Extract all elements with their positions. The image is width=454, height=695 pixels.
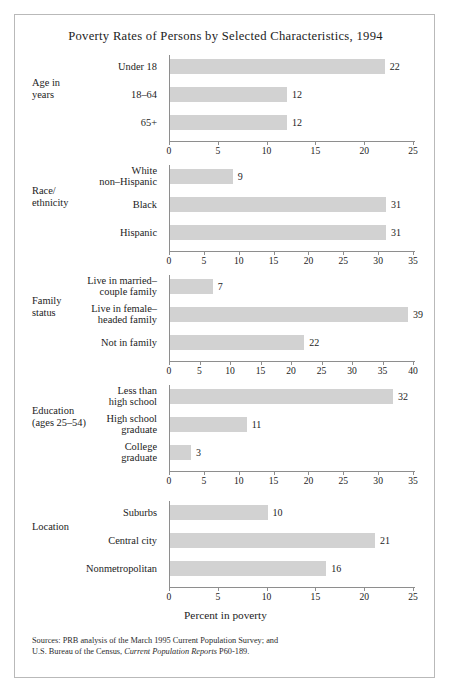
bar xyxy=(170,169,233,184)
category-label: Whitenon–Hispanic xyxy=(27,165,157,188)
axis-tick-label: 5 xyxy=(201,255,206,266)
x-axis-line xyxy=(169,361,415,362)
axis-tick-label: 20 xyxy=(359,591,369,602)
axis-tick-label: 5 xyxy=(215,591,220,602)
x-axis-line xyxy=(169,141,415,142)
bar xyxy=(170,197,386,212)
axis-tick-label: 15 xyxy=(311,145,321,156)
panel-plot-area: 05101520253035Whitenon–HispanicBlackHisp… xyxy=(169,163,414,267)
bar xyxy=(170,505,268,520)
sources-note: Sources: PRB analysis of the March 1995 … xyxy=(32,635,422,657)
bar xyxy=(170,307,408,322)
axis-tick-label: 15 xyxy=(256,365,266,376)
axis-tick-label: 15 xyxy=(311,591,321,602)
category-label: High schoolgraduate xyxy=(27,413,157,436)
sources-text: U.S. Bureau of the Census, xyxy=(32,647,124,656)
axis-tick-label: 25 xyxy=(317,365,327,376)
bar-value-label: 32 xyxy=(398,391,408,402)
category-label: Under 18 xyxy=(27,61,157,72)
category-label-line: Hispanic xyxy=(27,227,157,238)
bar-value-label: 3 xyxy=(196,447,201,458)
category-label-line: Suburbs xyxy=(27,507,157,518)
axis-tick-label: 0 xyxy=(167,475,172,486)
axis-tick-label: 5 xyxy=(197,365,202,376)
axis-tick-label: 20 xyxy=(304,255,314,266)
category-label-line: Less than xyxy=(27,385,157,396)
bar-value-label: 16 xyxy=(331,563,341,574)
category-label-line: Black xyxy=(27,199,157,210)
category-label: 65+ xyxy=(27,117,157,128)
bar-value-label: 31 xyxy=(391,199,401,210)
axis-tick-label: 0 xyxy=(167,145,172,156)
axis-tick-label: 10 xyxy=(234,475,244,486)
bar xyxy=(170,115,287,130)
bar xyxy=(170,561,326,576)
category-label-line: Central city xyxy=(27,535,157,546)
bar-value-label: 22 xyxy=(309,337,319,348)
panel-plot-area: 0510152025303540Live in married–couple f… xyxy=(169,273,414,377)
page-title: Poverty Rates of Persons by Selected Cha… xyxy=(15,29,436,44)
bar xyxy=(170,445,191,460)
category-label-line: Live in female– xyxy=(27,303,157,314)
axis-tick-label: 30 xyxy=(347,365,357,376)
category-label-line: graduate xyxy=(27,452,157,463)
category-label-line: 18–64 xyxy=(27,89,157,100)
category-label-line: couple family xyxy=(27,286,157,297)
sources-report-number: P60-189. xyxy=(217,647,249,656)
axis-tick-label: 0 xyxy=(167,255,172,266)
axis-tick-label: 40 xyxy=(408,365,418,376)
category-label-line: Live in married– xyxy=(27,275,157,286)
category-label: Live in married–couple family xyxy=(27,275,157,298)
axis-tick-label: 25 xyxy=(338,255,348,266)
category-labels: Under 1818–6465+ xyxy=(15,53,163,141)
axis-tick-label: 5 xyxy=(201,475,206,486)
category-labels: SuburbsCentral cityNonmetropolitan xyxy=(15,499,163,587)
x-axis-title: Percent in poverty xyxy=(15,609,436,621)
axis-tick-label: 30 xyxy=(373,255,383,266)
category-label: Less thanhigh school xyxy=(27,385,157,408)
category-labels: Less thanhigh schoolHigh schoolgraduateC… xyxy=(15,383,163,471)
chart-panel: Education(ages 25–54)05101520253035Less … xyxy=(15,383,436,487)
axis-tick-label: 10 xyxy=(262,145,272,156)
axis-tick-label: 25 xyxy=(408,591,418,602)
bar xyxy=(170,417,247,432)
axis-tick-label: 35 xyxy=(408,255,418,266)
axis-tick-label: 5 xyxy=(215,145,220,156)
panel-plot-area: 05101520253035Less thanhigh schoolHigh s… xyxy=(169,383,414,487)
axis-tick-label: 0 xyxy=(167,591,172,602)
axis-tick-label: 35 xyxy=(408,475,418,486)
bar xyxy=(170,335,304,350)
category-label: Live in female–headed family xyxy=(27,303,157,326)
x-axis-line xyxy=(169,587,415,588)
category-label: Nonmetropolitan xyxy=(27,563,157,574)
bar-value-label: 12 xyxy=(292,117,302,128)
bar-value-label: 12 xyxy=(292,89,302,100)
category-label-line: White xyxy=(27,165,157,176)
category-label: Black xyxy=(27,199,157,210)
bar-value-label: 11 xyxy=(252,419,262,430)
category-label-line: non–Hispanic xyxy=(27,176,157,187)
category-label-line: High school xyxy=(27,413,157,424)
axis-tick-label: 25 xyxy=(338,475,348,486)
axis-tick-label: 20 xyxy=(304,475,314,486)
category-label: Hispanic xyxy=(27,227,157,238)
sources-line: U.S. Bureau of the Census, Current Popul… xyxy=(32,646,422,657)
panel-plot-area: 0510152025Under 1818–6465+221212 xyxy=(169,53,414,157)
chart-panel: Age inyears0510152025Under 1818–6465+221… xyxy=(15,53,436,157)
category-label-line: 65+ xyxy=(27,117,157,128)
chart-panel: Location0510152025SuburbsCentral cityNon… xyxy=(15,499,436,603)
bar xyxy=(170,389,393,404)
axis-tick-label: 15 xyxy=(269,475,279,486)
bar xyxy=(170,87,287,102)
bar-value-label: 9 xyxy=(238,171,243,182)
axis-tick-label: 25 xyxy=(408,145,418,156)
category-label-line: Not in family xyxy=(27,337,157,348)
category-label: Collegegraduate xyxy=(27,441,157,464)
bar xyxy=(170,533,375,548)
bar xyxy=(170,59,385,74)
bar xyxy=(170,279,213,294)
chart-panel: Familystatus0510152025303540Live in marr… xyxy=(15,273,436,377)
axis-tick-label: 15 xyxy=(269,255,279,266)
sources-line: Sources: PRB analysis of the March 1995 … xyxy=(32,635,422,646)
category-label: Suburbs xyxy=(27,507,157,518)
